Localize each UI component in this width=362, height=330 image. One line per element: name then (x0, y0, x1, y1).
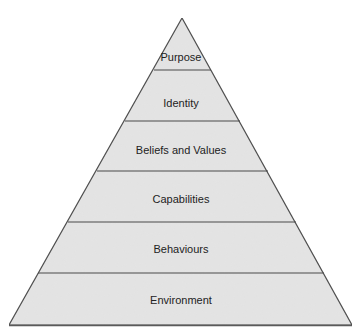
layer-label-identity: Identity (0, 96, 362, 110)
layer-label-behaviours: Behaviours (0, 242, 362, 256)
layer-label-environment: Environment (0, 293, 362, 307)
layer-label-capabilities: Capabilities (0, 192, 362, 206)
layer-label-beliefs-and-values: Beliefs and Values (0, 143, 362, 157)
layer-label-purpose: Purpose (0, 50, 362, 64)
